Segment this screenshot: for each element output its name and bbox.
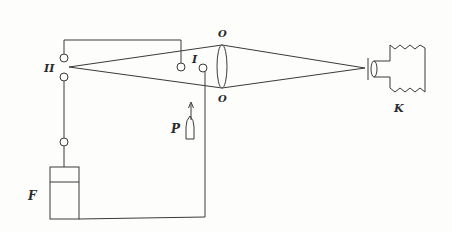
lens-O [217, 45, 227, 88]
label-O-bottom: O [218, 93, 227, 104]
label-K: K [393, 102, 404, 115]
spark-gap-II-upper-ball [60, 54, 68, 62]
label-P: P [170, 122, 181, 136]
label-I: I [191, 53, 198, 66]
label-O-top: O [218, 28, 227, 39]
spark-gap-I-right-ball [199, 64, 207, 72]
series-gap-ball [60, 138, 68, 146]
spark-gap-II-lower-ball [60, 73, 68, 81]
apparatus-diagram: II I O O K P F [0, 0, 452, 232]
probe-P [186, 116, 194, 139]
spark-gap-I-left-ball [177, 63, 185, 71]
source-F-box [50, 167, 79, 219]
label-F: F [27, 189, 38, 203]
ray-lower-out [222, 68, 365, 88]
camera-bellows [374, 45, 425, 92]
camera-lens [371, 61, 377, 77]
ray-upper-out [222, 45, 365, 68]
label-II: II [43, 62, 55, 75]
diagram-canvas: II I O O K P F [0, 0, 452, 232]
return-wire [79, 72, 205, 219]
ray-upper-in [69, 45, 222, 67]
